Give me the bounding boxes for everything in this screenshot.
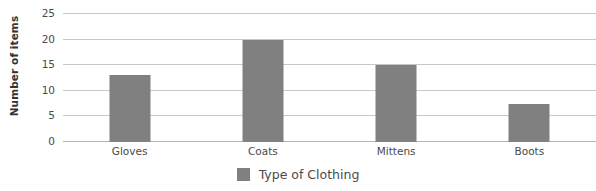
bar-slot	[196, 14, 329, 142]
bar-chart: Number of items 0510152025 GlovesCoatsMi…	[0, 0, 596, 191]
bar[interactable]	[242, 40, 283, 142]
plot-area: 0510152025	[63, 14, 596, 142]
y-tick-label: 25	[21, 8, 55, 19]
x-tick-label: Boots	[463, 145, 596, 157]
y-tick-label: 5	[21, 110, 55, 121]
bar[interactable]	[509, 104, 550, 142]
x-tick-label: Gloves	[63, 145, 196, 157]
bar-slot	[330, 14, 463, 142]
x-tick-label: Coats	[196, 145, 329, 157]
x-tick-label: Mittens	[330, 145, 463, 157]
bar[interactable]	[376, 65, 417, 142]
y-axis-title: Number of items	[8, 6, 20, 126]
x-axis-labels: GlovesCoatsMittensBoots	[63, 145, 596, 161]
y-tick-label: 20	[21, 33, 55, 44]
bar-slot	[463, 14, 596, 142]
y-tick-label: 0	[21, 136, 55, 147]
bar-slot	[63, 14, 196, 142]
y-tick-label: 10	[21, 85, 55, 96]
chart-legend: Type of Clothing	[0, 167, 596, 182]
bar[interactable]	[109, 75, 150, 142]
square-swatch-icon	[237, 168, 250, 181]
y-tick-label: 15	[21, 59, 55, 70]
bars-group	[63, 14, 596, 142]
legend-label: Type of Clothing	[259, 167, 360, 182]
